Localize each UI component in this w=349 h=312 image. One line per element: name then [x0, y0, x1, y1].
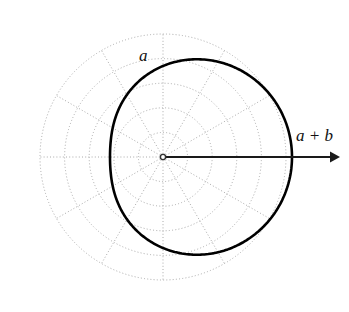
grid-spoke: [163, 157, 270, 219]
grid-spoke: [163, 50, 225, 157]
polar-plot-svg: [0, 0, 349, 312]
grid-spoke: [163, 157, 225, 264]
arrow-head: [330, 152, 340, 163]
radius-arrow-vector: [163, 152, 340, 163]
max-radius-label: a + b: [296, 127, 333, 144]
grid-spoke: [163, 96, 270, 158]
polar-figure: a a + b: [0, 0, 349, 312]
inner-radius-label: a: [139, 47, 148, 64]
origin-point: [160, 154, 165, 159]
